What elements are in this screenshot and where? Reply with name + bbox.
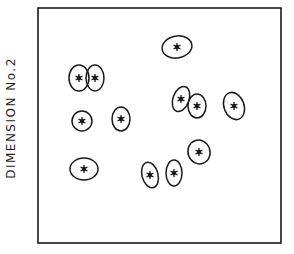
star-marker-icon — [92, 74, 99, 82]
data-point — [70, 158, 98, 180]
data-points — [69, 34, 248, 190]
star-marker-icon — [178, 95, 185, 103]
star-marker-icon — [79, 117, 86, 125]
plot-frame — [38, 8, 281, 243]
star-marker-icon — [174, 43, 181, 51]
data-point — [220, 89, 248, 122]
star-marker-icon — [81, 165, 88, 173]
star-marker-icon — [147, 171, 154, 179]
data-point — [139, 160, 161, 189]
data-point — [185, 137, 214, 167]
data-point — [112, 107, 130, 131]
data-point — [166, 160, 182, 186]
data-point — [188, 94, 206, 118]
star-marker-icon — [118, 115, 125, 123]
star-marker-icon — [231, 102, 238, 110]
y-axis-label: DIMENSION No.2 — [4, 53, 20, 183]
data-point — [72, 111, 92, 131]
star-marker-icon — [76, 74, 83, 82]
star-marker-icon — [171, 169, 178, 177]
data-point — [160, 34, 193, 61]
star-marker-icon — [194, 102, 201, 110]
scatter-plot — [0, 0, 294, 254]
star-marker-icon — [196, 148, 203, 156]
